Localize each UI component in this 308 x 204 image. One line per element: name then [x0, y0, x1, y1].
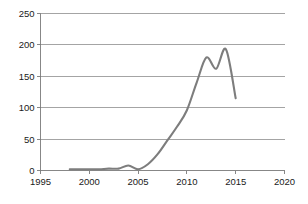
y-tick-label-100: 100	[19, 102, 35, 113]
y-tick-labels: 050100150200250	[19, 8, 35, 176]
x-tick-label-2000: 2000	[79, 176, 100, 187]
x-tick-label-2015: 2015	[225, 176, 246, 187]
line-chart: 050100150200250 199520002005201020152020	[0, 0, 308, 204]
x-tick-label-2010: 2010	[176, 176, 197, 187]
chart-canvas: 050100150200250 199520002005201020152020	[0, 0, 308, 204]
y-tick-label-250: 250	[19, 8, 35, 19]
y-tick-label-150: 150	[19, 71, 35, 82]
x-tick-label-2005: 2005	[128, 176, 149, 187]
x-tick-labels: 199520002005201020152020	[30, 176, 295, 187]
series-line-0	[70, 49, 236, 170]
y-tick-label-50: 50	[24, 134, 35, 145]
y-tick-label-0: 0	[29, 165, 34, 176]
x-tick-label-2020: 2020	[274, 176, 295, 187]
data-series	[70, 49, 236, 170]
y-tick-label-200: 200	[19, 39, 35, 50]
x-tick-label-1995: 1995	[30, 176, 51, 187]
